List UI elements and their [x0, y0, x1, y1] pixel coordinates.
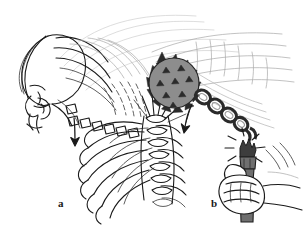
- anatomical-illustration: .ink { fill:none; stroke:#1a1a1a; stroke…: [0, 0, 303, 232]
- panel-label-b: b: [211, 198, 217, 209]
- panel-label-a: a: [58, 198, 64, 209]
- figure-container: .ink { fill:none; stroke:#1a1a1a; stroke…: [0, 0, 303, 232]
